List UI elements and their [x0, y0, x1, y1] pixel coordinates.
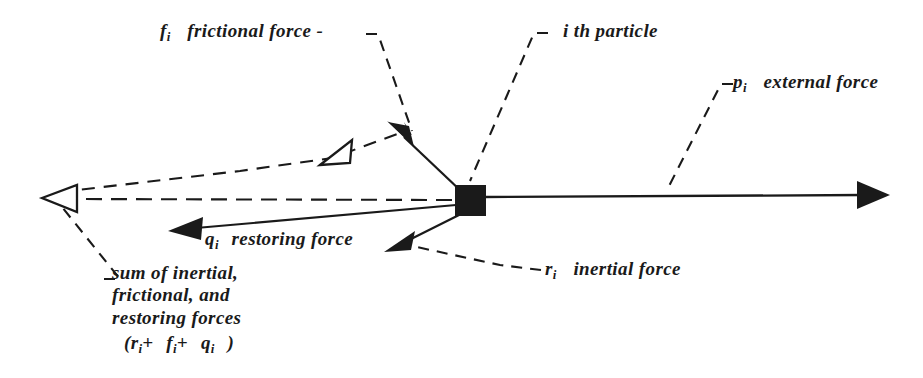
sum-line-1: sum of inertial,	[112, 262, 241, 284]
vector-resultant-force	[42, 185, 452, 212]
sum-line-2: frictional, and	[112, 284, 241, 306]
label-frictional-force: fifrictional force -	[160, 20, 323, 44]
external-force-shaft	[484, 195, 862, 197]
vector-frictional-force	[387, 121, 462, 192]
leader-line-external	[667, 84, 733, 190]
label-restoring-force: qirestoring force	[205, 228, 353, 252]
particle-node[interactable]	[455, 185, 486, 216]
symbol-r-i: ri	[545, 258, 556, 279]
vector-inertial-force	[384, 214, 461, 252]
inertial-force-arrowhead	[384, 231, 415, 252]
symbol-f-i: fi	[160, 20, 170, 41]
symbol-q-i: qi	[205, 228, 219, 249]
restoring-force-arrowhead	[168, 217, 203, 240]
label-ith-particle: i th particle	[563, 20, 658, 42]
resultant-force-arrowhead-hollow	[42, 185, 77, 212]
restoring-force-shaft	[196, 205, 456, 228]
resultant-force-shaft	[72, 199, 452, 200]
leader-line-particle	[470, 33, 548, 181]
label-sum-of-forces: sum of inertial, frictional, and restori…	[112, 262, 241, 357]
vector-external-force	[484, 181, 890, 209]
label-restoring-force-text: restoring force	[232, 228, 354, 249]
label-frictional-force-text: frictional force -	[187, 20, 323, 41]
symbol-p-i: pi	[733, 71, 747, 92]
label-inertial-force: riinertial force	[545, 258, 681, 282]
frictional-force-arrowhead-body	[388, 122, 414, 147]
external-force-arrowhead	[857, 181, 890, 209]
sum-line-3: restoring forces	[112, 307, 241, 329]
leader-line-frictional	[366, 34, 412, 131]
leader-line-inertial	[412, 246, 541, 270]
sum-formula: (ri+fi+qi)	[112, 329, 241, 356]
frictional-leader-arrowhead-hollow	[320, 140, 352, 165]
label-inertial-force-text: inertial force	[573, 258, 680, 279]
label-external-force-text: external force	[764, 71, 879, 92]
label-external-force: piexternal force	[733, 71, 878, 95]
label-ith-particle-text: i th particle	[563, 20, 658, 41]
force-diagram-figure: fifrictional force - i th particle piext…	[0, 0, 923, 378]
